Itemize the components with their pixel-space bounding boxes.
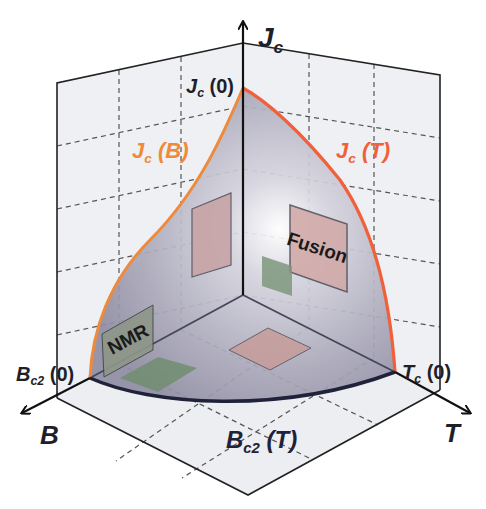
jc0-label: Jc (0) [186,76,234,100]
bc2-t-label: Bc2 (T) [226,428,297,456]
b-axis-label: B [40,422,59,448]
critical-surface-diagram: Jc B T Jc (0) Bc2 (0) Tc (0) Jc (B) Jc (… [0,0,486,509]
jc-b-label: Jc (B) [132,140,188,165]
tc0-label: Tc (0) [402,362,451,386]
bc20-label: Bc2 (0) [16,364,74,388]
jc-t-label: Jc (T) [336,140,390,165]
j-axis-label: Jc [258,24,283,56]
t-axis-label: T [444,420,460,446]
